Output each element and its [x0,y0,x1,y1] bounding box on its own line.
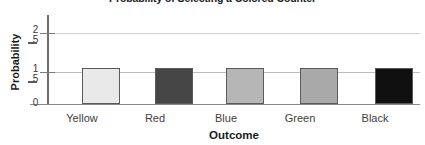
chart-title: Probability of Selecting a Colored Count… [0,0,425,4]
x-tick-label-green: Green [261,112,339,124]
y-tick-label-two-fifths: 2 5 [28,25,43,45]
fraction-bar [28,81,37,83]
x-tick-label-red: Red [116,112,194,124]
fraction-bar [28,42,37,44]
x-axis-line [30,104,420,105]
x-tick-label-blue: Blue [187,112,265,124]
bar-black [375,68,413,104]
x-tick-label-yellow: Yellow [43,112,121,124]
bar-red [155,68,193,104]
bar-yellow [82,68,120,104]
y-tick-label-one-fifth: 1 5 [28,64,43,84]
bar-chart: Probability of Selecting a Colored Count… [0,0,425,145]
x-tick-label-black: Black [336,112,414,124]
bar-blue [226,68,264,104]
plot-area [48,15,420,104]
x-axis-title: Outcome [48,129,420,141]
y-axis-title: Probability [9,16,21,108]
y-tick-label-zero: 0 [28,98,43,108]
bar-green [300,68,338,104]
